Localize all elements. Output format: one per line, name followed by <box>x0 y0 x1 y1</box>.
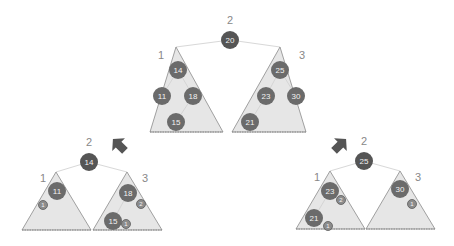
node-value: 15 <box>172 118 181 127</box>
node-value: 23 <box>262 92 271 101</box>
tree-node: 11 <box>153 87 171 105</box>
root-value: 20 <box>226 36 235 45</box>
bottom-left-tree-left-subtree: 1111 <box>22 162 91 230</box>
node-value: 21 <box>246 118 255 127</box>
subtree-label: 1 <box>314 171 320 183</box>
root-label: 2 <box>86 136 92 148</box>
bottom-left-tree-right-subtree: 3182151 <box>89 162 162 230</box>
root-label: 2 <box>361 135 367 147</box>
root-value: 25 <box>360 157 369 166</box>
node-value: 18 <box>189 92 198 101</box>
subtree-label: 1 <box>40 172 46 184</box>
subtree-label: 3 <box>415 171 421 183</box>
bottom-right-tree-left-subtree: 1232211 <box>296 161 365 231</box>
tree-node: 14 <box>169 61 187 79</box>
node-value: 23 <box>326 187 335 196</box>
tree-node: 25 <box>271 61 289 79</box>
node-value: 14 <box>174 66 183 75</box>
tree-node: 30 <box>287 87 305 105</box>
bottom-left-tree-root: 214 <box>80 136 98 171</box>
root-value: 14 <box>85 158 94 167</box>
tree-node: 15 <box>167 113 185 131</box>
bottom-right-tree-right-subtree: 3301 <box>364 161 435 229</box>
tree-node: 18 <box>184 87 202 105</box>
node-value: 25 <box>276 66 285 75</box>
bottom-right-tree-root: 225 <box>355 135 373 170</box>
node-value: 11 <box>158 92 167 101</box>
node-value: 30 <box>396 185 405 194</box>
subtree-label: 1 <box>158 49 164 61</box>
subtree-triangle <box>366 171 435 229</box>
node-value: 15 <box>109 217 118 226</box>
top-tree-root: 220 <box>221 14 239 49</box>
tree-node: 21 <box>241 113 259 131</box>
root-label: 2 <box>227 14 233 26</box>
subtree-label: 3 <box>142 172 148 184</box>
tree-rotation-diagram: 1141118153252330212201111318215121412322… <box>0 0 454 246</box>
top-tree-left-subtree: 114111815 <box>150 40 230 132</box>
node-value: 30 <box>292 92 301 101</box>
top-tree-right-subtree: 325233021 <box>230 40 306 132</box>
subtree-triangle <box>22 172 91 230</box>
tree-node: 23 <box>257 87 275 105</box>
subtree-label: 3 <box>299 49 305 61</box>
arrow-down-left-icon <box>107 133 132 158</box>
node-value: 11 <box>53 187 62 196</box>
arrow-down-right-icon <box>328 133 353 158</box>
node-value: 21 <box>310 214 319 223</box>
node-value: 18 <box>124 189 133 198</box>
